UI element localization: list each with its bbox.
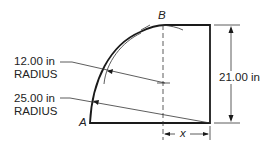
radius-25-word: RADIUS bbox=[14, 105, 57, 118]
x-dim-label: x bbox=[180, 127, 186, 140]
radius-25-value: 25.00 in bbox=[14, 92, 55, 105]
height-dim-label: 21.00 in bbox=[218, 71, 261, 84]
point-a-label: A bbox=[79, 116, 87, 129]
radius-12-word: RADIUS bbox=[14, 68, 57, 81]
outline-path bbox=[90, 25, 210, 123]
point-b-label: B bbox=[158, 9, 166, 22]
leader-12 bbox=[60, 62, 165, 83]
radius-12-value: 12.00 in bbox=[14, 55, 55, 68]
